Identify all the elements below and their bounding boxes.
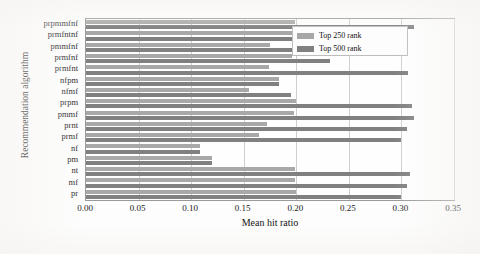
bar-top500	[86, 138, 401, 142]
x-tick-label: 0.10	[182, 203, 198, 213]
x-tick-label: 0.15	[235, 203, 251, 213]
y-tick-label: prmfnt	[55, 64, 78, 73]
x-tick-label: 0.20	[287, 203, 303, 213]
x-tick-label: 0.25	[340, 203, 356, 213]
bar-top250	[86, 122, 267, 126]
y-tick-label: prmf	[61, 132, 78, 141]
bar-top250	[86, 178, 295, 182]
chart-legend: Top 250 rank Top 500 rank	[292, 26, 408, 56]
legend-item-top500: Top 500 rank	[297, 43, 403, 54]
bar-top250	[86, 88, 249, 92]
x-tick-label: 0.05	[130, 203, 146, 213]
y-tick-label: pr	[71, 189, 78, 198]
chart-figure: Recommendation algorithm prpmmfnfprmfntn…	[0, 0, 480, 254]
gridline	[454, 19, 455, 200]
bar-top500	[86, 71, 408, 75]
bar-top250	[86, 20, 295, 24]
bar-top500	[86, 116, 414, 120]
y-tick-label: nfpm	[60, 76, 78, 85]
bar-top250	[86, 77, 279, 81]
bar-top500	[86, 195, 401, 199]
bar-group	[86, 87, 454, 98]
bar-top250	[86, 144, 200, 148]
y-tick-label: nf	[71, 144, 78, 153]
bar-group	[86, 64, 454, 75]
bar-top250	[86, 54, 292, 58]
bar-group	[86, 121, 454, 132]
x-axis-tick-labels: 0.000.050.100.150.200.250.300.35	[85, 203, 455, 217]
bar-top250	[86, 111, 294, 115]
y-tick-label: prpmmfnf	[44, 19, 78, 28]
legend-swatch-icon-top250	[297, 33, 314, 39]
bar-group	[86, 177, 454, 188]
bar-top250	[86, 167, 295, 171]
bar-group	[86, 98, 454, 109]
bar-top250	[86, 31, 326, 35]
bar-group	[86, 110, 454, 121]
y-tick-label: nt	[71, 166, 78, 175]
bar-top500	[86, 59, 330, 63]
legend-item-top250: Top 250 rank	[297, 30, 403, 41]
bar-group	[86, 189, 454, 200]
bar-top500	[86, 184, 407, 188]
bar-top500	[86, 161, 212, 165]
bar-top250	[86, 99, 296, 103]
bar-group	[86, 76, 454, 87]
x-axis-title: Mean hit ratio	[85, 217, 455, 228]
x-tick-label: 0.35	[445, 203, 461, 213]
y-tick-label: nfmf	[61, 87, 78, 96]
y-tick-label: mf	[69, 178, 78, 187]
bar-top500	[86, 150, 200, 154]
bar-top250	[86, 133, 259, 137]
legend-label-top250: Top 250 rank	[319, 31, 362, 40]
y-tick-label: prmfntnf	[48, 30, 78, 39]
y-tick-label: prmfnf	[54, 53, 78, 62]
y-tick-label: pmmf	[58, 110, 78, 119]
x-tick-label: 0.00	[77, 203, 93, 213]
x-tick-label: 0.30	[393, 203, 409, 213]
bar-top250	[86, 43, 270, 47]
bar-top500	[86, 172, 410, 176]
legend-label-top500: Top 500 rank	[319, 44, 362, 53]
bar-top500	[86, 104, 412, 108]
bar-group	[86, 166, 454, 177]
bar-top250	[86, 65, 269, 69]
y-tick-label: pmmfnf	[51, 42, 78, 51]
bar-top500	[86, 127, 407, 131]
y-tick-label: prpm	[60, 98, 78, 107]
bar-group	[86, 155, 454, 166]
y-axis-tick-labels: prpmmfnfprmfntnfpmmfnfprmfnfprmfntnfpmnf…	[0, 18, 82, 201]
bar-group	[86, 132, 454, 143]
bar-top250	[86, 156, 212, 160]
y-tick-label: prnt	[64, 121, 78, 130]
bar-top500	[86, 82, 279, 86]
legend-swatch-icon-top500	[297, 46, 314, 52]
bar-top500	[86, 93, 291, 97]
bar-group	[86, 143, 454, 154]
bar-top250	[86, 190, 296, 194]
y-tick-label: pm	[67, 155, 78, 164]
